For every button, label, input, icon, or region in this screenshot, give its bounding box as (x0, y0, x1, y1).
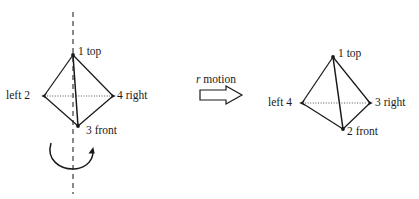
label-left-tetra-top: 1 top (78, 45, 101, 57)
vertex-front-dot-2 (341, 127, 345, 131)
edge-top-left-2 (302, 57, 333, 103)
edge-top-right (73, 55, 113, 96)
left-tetrahedron-group (44, 12, 113, 194)
label-right-tetra-top: 1 top (338, 47, 361, 59)
rotation-curved-arrow (50, 143, 93, 169)
edge-top-left (44, 55, 73, 96)
label-transform-word: motion (200, 73, 235, 85)
label-transform-motion: r motion (196, 73, 236, 85)
label-right-tetra-right: 3 right (375, 96, 405, 108)
right-tetrahedron-group (302, 55, 370, 131)
edge-right-front (78, 96, 113, 126)
label-right-tetra-left: left 4 (268, 96, 292, 108)
vertex-top-dot-2 (331, 55, 335, 59)
transform-arrow-group (200, 86, 242, 104)
vertex-front-dot (76, 124, 80, 128)
tetrahedron-rotation-figure (0, 0, 419, 199)
label-right-tetra-front: 2 front (347, 125, 378, 137)
label-left-tetra-left: left 2 (6, 89, 30, 101)
label-left-tetra-front: 3 front (86, 124, 117, 136)
edge-top-front (73, 55, 78, 126)
label-left-tetra-right: 4 right (117, 89, 147, 101)
edge-left-front-2 (302, 103, 343, 129)
vertex-top-dot (71, 53, 75, 57)
block-arrow-right-icon (200, 86, 242, 104)
